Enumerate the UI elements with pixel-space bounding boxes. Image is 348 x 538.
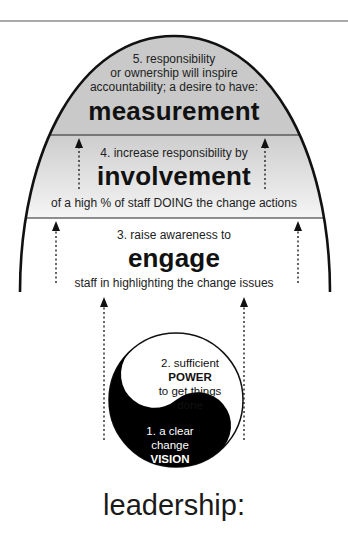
level5-line1: 5. responsibility (0, 52, 348, 66)
level5-line2: or ownership will inspire (0, 66, 348, 80)
arrowhead-icon (100, 297, 108, 307)
power-outro-1: to get things (146, 384, 234, 398)
level4-outro: of a high % of staff DOING the change ac… (0, 196, 348, 210)
power-intro: 2. sufficient (146, 356, 234, 370)
vision-block: 1. a clear change VISION (130, 424, 210, 466)
power-block: 2. sufficient POWER to get things done (146, 356, 234, 412)
level5-line3: accountability; a desire to have: (0, 80, 348, 94)
power-keyword: POWER (146, 370, 234, 384)
arrowhead-icon (240, 297, 248, 307)
level3-outro: staff in highlighting the change issues (0, 276, 348, 290)
vision-intro: 1. a clear (130, 424, 210, 438)
leadership-title: leadership: (0, 489, 348, 521)
level4-intro: 4. increase responsibility by (0, 146, 348, 160)
keyword-engage: engage (0, 244, 348, 272)
keyword-involvement: involvement (0, 162, 348, 190)
level3-intro: 3. raise awareness to (0, 228, 348, 242)
vision-line2: change (130, 438, 210, 452)
vision-keyword: VISION (130, 452, 210, 466)
keyword-measurement: measurement (0, 97, 348, 125)
power-outro-2: done (146, 398, 234, 412)
